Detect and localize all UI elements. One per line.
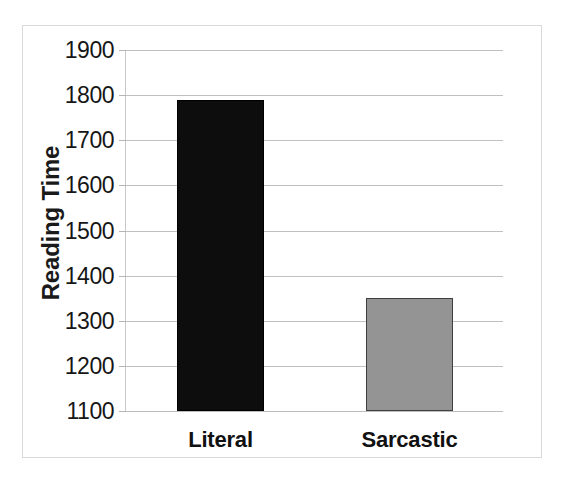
y-tick-label-1200: 1200	[65, 352, 114, 379]
y-tick-mark-1300	[119, 321, 126, 322]
y-tick-label-1100: 1100	[67, 398, 114, 425]
y-tick-label-1500: 1500	[65, 217, 114, 244]
gridline-1900	[126, 50, 503, 51]
y-tick-label-1600: 1600	[65, 172, 114, 199]
y-tick-label-1300: 1300	[65, 307, 114, 334]
chart-figure: Reading Time 190018001700160015001400130…	[22, 25, 542, 458]
y-tick-mark-1600	[119, 185, 126, 186]
y-tick-mark-1200	[119, 366, 126, 367]
y-tick-label-1900: 1900	[65, 37, 114, 64]
y-axis-title: Reading Time	[36, 123, 66, 323]
y-tick-mark-1400	[119, 276, 126, 277]
y-tick-mark-1800	[119, 95, 126, 96]
bar-sarcastic	[366, 298, 453, 411]
bar-literal	[177, 100, 264, 411]
x-tick-label-sarcastic: Sarcastic	[361, 427, 457, 453]
gridline-1100	[126, 411, 503, 412]
y-tick-mark-1500	[119, 231, 126, 232]
y-tick-mark-1100	[119, 411, 126, 412]
y-tick-label-1800: 1800	[65, 82, 114, 109]
plot-area: 190018001700160015001400130012001100Lite…	[125, 50, 503, 411]
y-tick-mark-1700	[119, 140, 126, 141]
y-tick-label-1700: 1700	[65, 127, 114, 154]
gridline-1800	[126, 95, 503, 96]
y-tick-mark-1900	[119, 50, 126, 51]
y-tick-label-1400: 1400	[65, 262, 114, 289]
x-tick-label-literal: Literal	[188, 427, 253, 453]
